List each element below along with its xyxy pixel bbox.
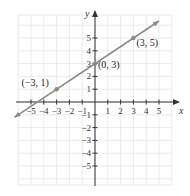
y-axis-label: y	[84, 8, 90, 19]
y-tick-label: 2	[87, 71, 92, 81]
y-tick-label: −4	[81, 148, 91, 158]
y-tick-label: −2	[81, 123, 91, 133]
y-tick-label: −1	[81, 110, 91, 120]
point-label: (0, 3)	[98, 59, 120, 71]
x-tick-label: 4	[144, 106, 149, 116]
x-tick-label: 1	[106, 106, 111, 116]
y-tick-label: −3	[81, 135, 91, 145]
coordinate-plane: x y −5−4−3−2−112345−5−4−3−2−112345 (−3, …	[0, 0, 190, 196]
data-point	[93, 61, 97, 65]
x-axis-label: x	[178, 105, 184, 116]
x-tick-label: 2	[118, 106, 123, 116]
x-tick-label: 3	[131, 106, 136, 116]
x-tick-label: −3	[52, 106, 62, 116]
data-point	[131, 36, 135, 40]
y-tick-label: 4	[87, 46, 92, 56]
x-tick-label: −4	[39, 106, 49, 116]
x-tick-label: −2	[65, 106, 75, 116]
point-label: (−3, 1)	[22, 77, 49, 89]
x-tick-label: 5	[157, 106, 162, 116]
y-axis-arrow-icon	[92, 10, 98, 17]
data-point	[54, 87, 58, 91]
y-tick-label: −5	[81, 161, 91, 171]
y-tick-label: 1	[87, 84, 92, 94]
y-tick-label: 5	[87, 33, 92, 43]
point-label: (3, 5)	[136, 37, 158, 49]
